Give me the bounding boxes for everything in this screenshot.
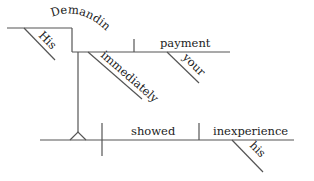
word-his-upper: His bbox=[36, 28, 60, 52]
word-showed: showed bbox=[131, 124, 176, 138]
word-your: your bbox=[179, 50, 209, 80]
pedestal-fork bbox=[70, 132, 86, 140]
word-inexperience: inexperience bbox=[213, 124, 288, 138]
word-demanding: Demanding bbox=[0, 0, 114, 34]
word-payment: payment bbox=[160, 36, 211, 50]
sentence-diagram: Demanding His immediately payment your s… bbox=[0, 0, 314, 181]
word-his-lower: his bbox=[247, 138, 269, 160]
word-immediately: immediately bbox=[98, 48, 162, 106]
